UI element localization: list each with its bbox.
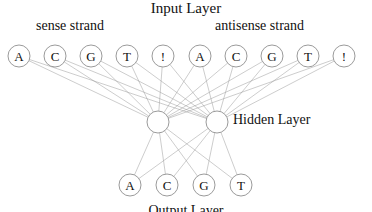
edge-input-8-to-hidden-1 — [226, 62, 299, 115]
edges-hidden-to-output — [134, 128, 237, 178]
output-node-label: A — [125, 178, 135, 193]
input-node-5: A — [189, 45, 211, 67]
edges-input-to-hidden — [29, 59, 334, 118]
input-node-label: T — [123, 49, 131, 64]
input-layer-nodes: ACGT!ACGT! — [8, 45, 355, 67]
edge-input-5-to-hidden-0 — [164, 65, 194, 112]
edge-hidden-1-to-output-2 — [206, 133, 215, 174]
input-node-4: ! — [152, 45, 174, 67]
output-node-3: T — [230, 174, 252, 196]
hidden-node-1 — [206, 111, 228, 133]
input-node-1: C — [44, 45, 66, 67]
edge-input-1-to-hidden-1 — [65, 60, 207, 118]
input-node-label: G — [86, 49, 95, 64]
edge-input-6-to-hidden-1 — [220, 67, 233, 112]
input-node-6: C — [225, 45, 247, 67]
hidden-node-circle — [147, 111, 169, 133]
hidden-node-0 — [147, 111, 169, 133]
input-node-label: A — [14, 49, 24, 64]
edge-hidden-0-to-output-2 — [164, 131, 197, 176]
output-node-label: G — [199, 178, 208, 193]
edge-hidden-1-to-output-0 — [139, 128, 208, 178]
input-node-label: T — [304, 49, 312, 64]
input-node-3: T — [116, 45, 138, 67]
sense-strand-caption: sense strand — [36, 19, 104, 33]
hidden-node-circle — [206, 111, 228, 133]
output-node-label: C — [163, 178, 172, 193]
output-layer-caption: Output Layer — [0, 204, 372, 212]
output-node-1: C — [156, 174, 178, 196]
edge-input-0-to-hidden-1 — [29, 59, 206, 118]
output-node-2: G — [193, 174, 215, 196]
edge-input-9-to-hidden-1 — [227, 61, 334, 117]
hidden-layer-nodes — [147, 111, 228, 133]
edge-input-5-to-hidden-1 — [203, 67, 215, 112]
input-node-label: ! — [342, 49, 346, 64]
input-node-label: ! — [161, 49, 165, 64]
neural-network-diagram: ACGT!ACGT! ACGT Input Layer sense strand… — [0, 0, 372, 212]
input-node-label: C — [232, 49, 241, 64]
input-node-9: ! — [333, 45, 355, 67]
input-node-2: G — [80, 45, 102, 67]
input-node-label: A — [195, 49, 205, 64]
output-node-label: T — [237, 178, 245, 193]
input-node-8: T — [297, 45, 319, 67]
edge-hidden-1-to-output-3 — [221, 132, 237, 174]
output-node-0: A — [119, 174, 141, 196]
edge-input-7-to-hidden-0 — [168, 62, 263, 117]
input-node-label: C — [51, 49, 60, 64]
output-layer-nodes: ACGT — [119, 174, 252, 196]
hidden-layer-caption: Hidden Layer — [233, 113, 310, 127]
edge-hidden-0-to-output-1 — [160, 133, 166, 174]
edge-hidden-0-to-output-0 — [134, 132, 153, 175]
edge-input-9-to-hidden-0 — [168, 60, 333, 119]
input-node-7: G — [261, 45, 283, 67]
edge-input-0-to-hidden-0 — [29, 61, 148, 118]
input-node-0: A — [8, 45, 30, 67]
input-node-label: G — [267, 49, 276, 64]
input-layer-caption: Input Layer — [0, 1, 372, 16]
edge-input-4-to-hidden-0 — [159, 67, 162, 111]
edge-input-8-to-hidden-0 — [168, 60, 298, 117]
edge-hidden-1-to-output-1 — [174, 131, 210, 177]
antisense-strand-caption: antisense strand — [215, 19, 304, 33]
